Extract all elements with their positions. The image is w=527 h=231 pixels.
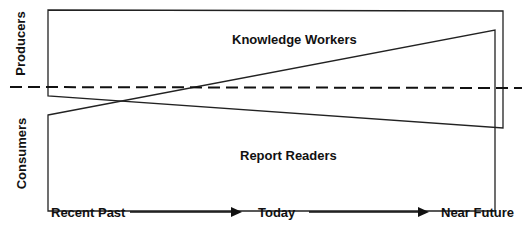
knowledge-workers-label: Knowledge Workers <box>232 32 357 47</box>
producers-label: Producers <box>13 11 28 75</box>
consumers-label: Consumers <box>14 118 29 190</box>
report-readers-label: Report Readers <box>240 148 337 163</box>
arrow-left-head <box>231 207 242 217</box>
knowledge-workers-shape <box>48 10 503 128</box>
timeline-today: Today <box>258 205 295 220</box>
timeline-recent-past: Recent Past <box>51 205 125 220</box>
arrow-right-head <box>418 207 429 217</box>
report-readers-shape <box>48 30 495 211</box>
timeline-near-future: Near Future <box>441 205 514 220</box>
divider-dashed-line <box>10 87 522 88</box>
